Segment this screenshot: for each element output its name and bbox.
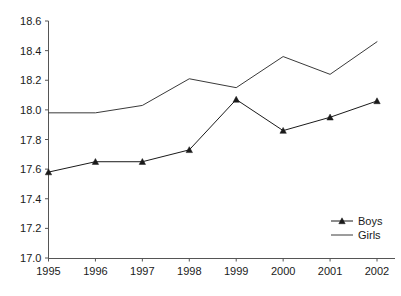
- x-axis-tick-label: 1999: [224, 265, 248, 277]
- x-axis-tick-label: 1997: [130, 265, 154, 277]
- y-axis-tick-label: 18.6: [20, 15, 41, 27]
- legend-label-girls: Girls: [358, 229, 381, 241]
- x-axis-tick-label: 2002: [365, 265, 389, 277]
- y-axis-tick-label: 17.4: [20, 193, 41, 205]
- y-axis-tick-labels: 17.017.217.417.617.818.018.218.418.6: [20, 15, 41, 264]
- y-axis-tick-label: 18.0: [20, 104, 41, 116]
- y-axis-tick-label: 18.2: [20, 74, 41, 86]
- x-axis-tick-label: 1995: [36, 265, 60, 277]
- x-axis-tick-label: 1998: [177, 265, 201, 277]
- y-axis-tick-label: 18.4: [20, 45, 41, 57]
- y-axis-tick-label: 17.6: [20, 163, 41, 175]
- line-chart: 17.017.217.417.617.818.018.218.418.6 199…: [0, 0, 401, 296]
- y-axis-tick-label: 17.8: [20, 134, 41, 146]
- chart-canvas: 17.017.217.417.617.818.018.218.418.6 199…: [0, 0, 401, 296]
- y-axis-tick-label: 17.0: [20, 252, 41, 264]
- x-axis-tick-label: 2000: [271, 265, 295, 277]
- x-axis-tick-label: 1996: [83, 265, 107, 277]
- y-axis-tick-label: 17.2: [20, 222, 41, 234]
- x-axis-tick-label: 2001: [318, 265, 342, 277]
- legend-label-boys: Boys: [358, 215, 383, 227]
- plot-background: [0, 0, 401, 296]
